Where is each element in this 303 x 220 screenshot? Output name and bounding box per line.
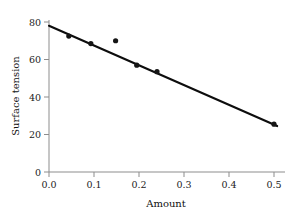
y-tick-label-40: 40 xyxy=(29,92,41,103)
x-tick-label-0.0: 0.0 xyxy=(41,179,56,190)
x-tick-label-0.4: 0.4 xyxy=(221,179,236,190)
data-point xyxy=(88,41,93,46)
data-point xyxy=(271,122,276,127)
y-axis-title: Surface tension xyxy=(10,56,21,136)
data-point xyxy=(113,38,118,43)
x-tick-label-0.2: 0.2 xyxy=(131,179,146,190)
data-point xyxy=(154,69,159,74)
plot-canvas: 80 60 40 20 0 0.0 0.1 0.2 0.3 0.4 0.5 Am… xyxy=(0,0,303,220)
data-point xyxy=(66,33,71,38)
data-point xyxy=(134,63,139,68)
x-axis-title: Amount xyxy=(145,198,186,209)
y-tick-label-0: 0 xyxy=(35,167,41,178)
x-tick-label-0.5: 0.5 xyxy=(266,179,281,190)
regression-fit-line xyxy=(49,26,277,126)
x-tick-label-0.3: 0.3 xyxy=(176,179,191,190)
y-tick-label-20: 20 xyxy=(29,129,41,140)
scatter-plot-figure: 80 60 40 20 0 0.0 0.1 0.2 0.3 0.4 0.5 Am… xyxy=(0,0,303,220)
y-tick-label-60: 60 xyxy=(29,54,41,65)
x-tick-label-0.1: 0.1 xyxy=(86,179,101,190)
y-tick-label-80: 80 xyxy=(29,17,41,28)
